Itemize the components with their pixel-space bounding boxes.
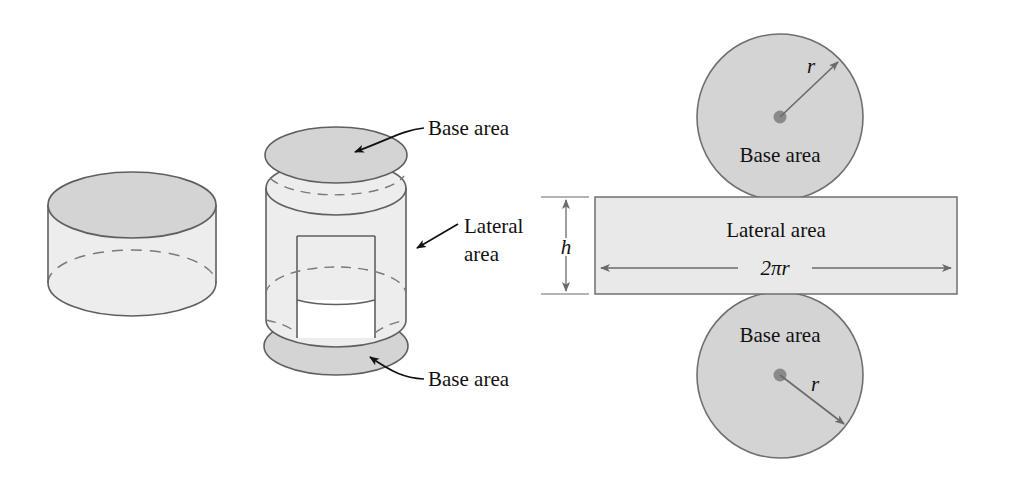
- solid-cylinder-top-disc: [48, 172, 216, 238]
- exploded-top-base-disc: [265, 127, 407, 183]
- exploded-lateral-inner-backwall: [297, 236, 375, 300]
- figure-canvas: Base area Lateral area Base area r Base …: [0, 0, 1009, 481]
- label-net-width: 2πr: [760, 256, 790, 280]
- label-net-height: h: [561, 235, 572, 259]
- label-lateral-area-rect: Lateral area: [726, 218, 826, 242]
- exploded-cylinder: Base area Lateral area Base area: [264, 116, 524, 391]
- label-bottom-radius: r: [811, 372, 820, 396]
- label-lateral-area-line2: area: [464, 242, 500, 266]
- cylinder-surface-area-figure: Base area Lateral area Base area r Base …: [0, 0, 1009, 481]
- label-lateral-area-line1: Lateral: [464, 214, 524, 238]
- label-top-circle-base-area: Base area: [739, 143, 821, 167]
- solid-cylinder: [48, 172, 216, 316]
- label-top-base-area: Base area: [428, 116, 510, 140]
- label-bottom-base-area: Base area: [428, 367, 510, 391]
- label-bottom-circle-base-area: Base area: [739, 323, 821, 347]
- label-top-radius: r: [807, 54, 816, 78]
- leader-lateral-area: [417, 224, 458, 248]
- cylinder-net: r Base area r Base area Lateral area 2πr…: [541, 34, 957, 458]
